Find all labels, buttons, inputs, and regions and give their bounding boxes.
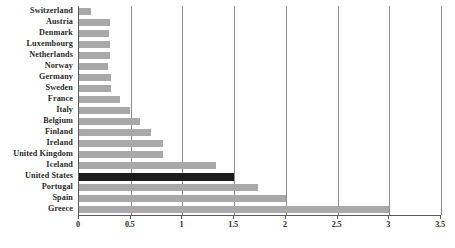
bar-row xyxy=(79,61,441,72)
bar xyxy=(79,206,389,213)
tick-mark xyxy=(337,216,338,219)
bar xyxy=(79,30,109,37)
bar-row xyxy=(79,149,441,160)
bar-row xyxy=(79,204,441,215)
tick-label: 1.5 xyxy=(228,220,238,229)
value-axis: 00.511.522.533.5 xyxy=(78,216,440,238)
bar xyxy=(79,74,111,81)
bar-row xyxy=(79,171,441,182)
bar xyxy=(79,96,120,103)
bar xyxy=(79,184,258,191)
tick-label: 0 xyxy=(76,220,80,229)
bar-row xyxy=(79,83,441,94)
tick-label: 3 xyxy=(386,220,390,229)
tick-label: 0.5 xyxy=(125,220,135,229)
category-label: Finland xyxy=(0,127,76,138)
category-label: Spain xyxy=(0,193,76,204)
category-label: United States xyxy=(0,171,76,182)
bar xyxy=(79,85,111,92)
tick-mark xyxy=(388,216,389,219)
tick-mark xyxy=(233,216,234,219)
bar-row xyxy=(79,127,441,138)
bar-row xyxy=(79,28,441,39)
bar xyxy=(79,8,91,15)
bar-series xyxy=(79,6,441,215)
bar-row xyxy=(79,193,441,204)
bar-row xyxy=(79,72,441,83)
bar-chart: SwitzerlandAustriaDenmarkLuxembourgNethe… xyxy=(0,0,455,248)
tick-mark xyxy=(285,216,286,219)
tick-label: 3.5 xyxy=(435,220,445,229)
bar-row xyxy=(79,182,441,193)
tick-label: 2 xyxy=(283,220,287,229)
gridline xyxy=(441,6,442,215)
bar-row xyxy=(79,116,441,127)
bar-row xyxy=(79,6,441,17)
category-label: Luxembourg xyxy=(0,39,76,50)
bar xyxy=(79,151,163,158)
category-label: Netherlands xyxy=(0,50,76,61)
category-label: France xyxy=(0,94,76,105)
category-label: Switzerland xyxy=(0,6,76,17)
bar-row xyxy=(79,94,441,105)
tick-mark xyxy=(130,216,131,219)
category-label: Greece xyxy=(0,204,76,215)
category-label: Austria xyxy=(0,17,76,28)
bar xyxy=(79,19,110,26)
bar-row xyxy=(79,17,441,28)
category-axis-labels: SwitzerlandAustriaDenmarkLuxembourgNethe… xyxy=(0,6,76,215)
bar xyxy=(79,41,110,48)
bar xyxy=(79,52,110,59)
category-label: Norway xyxy=(0,61,76,72)
bar-highlighted xyxy=(79,173,234,181)
bar-row xyxy=(79,138,441,149)
tick-label: 2.5 xyxy=(332,220,342,229)
category-label: Belgium xyxy=(0,116,76,127)
category-label: Portugal xyxy=(0,182,76,193)
tick-label: 1 xyxy=(179,220,183,229)
bar-row xyxy=(79,50,441,61)
category-label: Italy xyxy=(0,105,76,116)
tick-mark xyxy=(78,216,79,219)
plot-area xyxy=(78,6,441,216)
tick-mark xyxy=(181,216,182,219)
category-label: Germany xyxy=(0,72,76,83)
bar xyxy=(79,63,108,70)
bar-row xyxy=(79,39,441,50)
bar-row xyxy=(79,105,441,116)
bar xyxy=(79,162,216,169)
bar xyxy=(79,140,163,147)
category-label: Sweden xyxy=(0,83,76,94)
tick-mark xyxy=(440,216,441,219)
category-label: Ireland xyxy=(0,138,76,149)
bar-row xyxy=(79,160,441,171)
category-label: United Kingdom xyxy=(0,149,76,160)
category-label: Denmark xyxy=(0,28,76,39)
bar xyxy=(79,107,130,114)
category-label: Iceland xyxy=(0,160,76,171)
bar xyxy=(79,129,151,136)
bar xyxy=(79,195,286,202)
bar xyxy=(79,118,140,125)
